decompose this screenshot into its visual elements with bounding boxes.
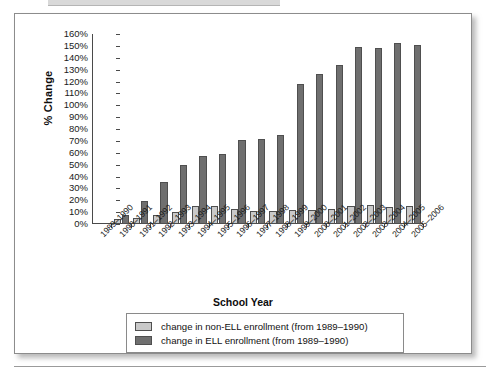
scan-artifact-top (48, 0, 280, 6)
y-tick-label: 70% (69, 136, 88, 146)
chart-area: % Change 160%150%140%130%120%110%100%90%… (15, 14, 471, 353)
y-tick-label: 0% (74, 219, 88, 229)
y-tick-label: 90% (69, 112, 88, 122)
y-tick-label: 30% (69, 183, 88, 193)
bar (336, 65, 343, 224)
y-tick-label: 10% (69, 207, 88, 217)
y-tick-label: 140% (64, 53, 88, 63)
bar (375, 48, 382, 224)
y-tick-label: 130% (64, 65, 88, 75)
y-tick-label: 60% (69, 148, 88, 158)
x-axis-title: School Year (15, 296, 471, 308)
legend-label-ell: change in ELL enrollment (from 1989–1990… (161, 335, 348, 346)
y-tick-label: 50% (69, 160, 88, 170)
chart-legend: change in non-ELL enrollment (from 1989–… (126, 313, 404, 353)
y-tick-label: 80% (69, 124, 88, 134)
figure-panel: % Change 160%150%140%130%120%110%100%90%… (14, 13, 472, 354)
y-axis-tick-labels: 160%150%140%130%120%110%100%90%80%70%60%… (43, 28, 91, 230)
y-tick-label: 100% (64, 100, 88, 110)
scan-artifact-bottom (14, 366, 486, 367)
bar (355, 47, 362, 224)
y-tick-label: 40% (69, 172, 88, 182)
y-tick-label: 110% (64, 88, 88, 98)
figure-page: % Change 160%150%140%130%120%110%100%90%… (0, 0, 500, 374)
bar (414, 45, 421, 224)
y-tick-label: 160% (64, 29, 88, 39)
bar (394, 43, 401, 224)
y-tick-label: 120% (64, 77, 88, 87)
legend-item-ell: change in ELL enrollment (from 1989–1990… (135, 333, 395, 347)
legend-label-non-ell: change in non-ELL enrollment (from 1989–… (161, 321, 368, 332)
bar (316, 74, 323, 224)
y-tick-label: 20% (69, 195, 88, 205)
legend-item-non-ell: change in non-ELL enrollment (from 1989–… (135, 319, 395, 333)
legend-swatch-non-ell-icon (135, 322, 152, 331)
y-tick-label: 150% (64, 41, 88, 51)
plot-region (92, 34, 423, 224)
legend-swatch-ell-icon (135, 336, 152, 345)
x-axis-tick-labels: 1989–19901990–19911991–19921992–19931993… (92, 226, 432, 288)
